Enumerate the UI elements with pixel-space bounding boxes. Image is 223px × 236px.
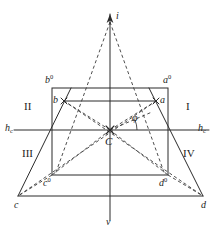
- dashed-c-to-c0: [52, 130, 110, 175]
- label-point-a: a: [160, 95, 165, 105]
- dashed-c-to-d0: [110, 130, 168, 175]
- label-center-c: C: [105, 136, 112, 147]
- label-point-c: c: [14, 200, 18, 210]
- label-point-b: b: [53, 95, 58, 105]
- label-point-a0: a0: [163, 75, 171, 85]
- label-quadrant-1: I: [186, 101, 190, 112]
- label-apex-i: i: [116, 11, 119, 21]
- figure-canvas: [0, 0, 223, 236]
- label-point-d0: d0: [159, 178, 167, 188]
- label-quadrant-2: II: [24, 101, 31, 112]
- label-point-b0: b0: [45, 75, 53, 85]
- trapezoid-right-slant: [149, 88, 203, 196]
- label-horizon-left: hc: [5, 123, 13, 133]
- label-quadrant-4: IV: [183, 148, 195, 159]
- label-vertical-axis-v: v: [106, 217, 110, 227]
- dashed-i-to-d0: [110, 22, 165, 175]
- label-horizon-right: hc: [198, 123, 206, 133]
- label-point-d: d: [201, 200, 206, 210]
- axes: [14, 14, 209, 220]
- label-angle-phi: φ: [132, 113, 138, 123]
- geometry-figure: i v hc hc C φ a b c d a0 b0 c0 d0 I II I…: [0, 0, 223, 236]
- label-quadrant-3: III: [22, 148, 33, 159]
- label-point-c0: c0: [43, 178, 51, 188]
